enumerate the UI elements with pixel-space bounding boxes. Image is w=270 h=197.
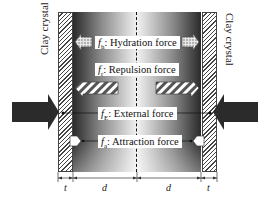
hydration-force-label: fh: Hydration force — [95, 36, 180, 49]
attraction-text: : Attraction force — [107, 136, 179, 147]
repulsion-arrow-left — [75, 79, 118, 97]
force-arrows — [0, 0, 270, 197]
attraction-arrow-right — [193, 136, 204, 146]
attraction-force-label: fa: Attraction force — [98, 135, 182, 148]
repulsion-force-label: fr: Repulsion force — [95, 63, 179, 76]
attraction-arrow-left — [70, 136, 81, 146]
external-arrow-left — [12, 94, 59, 130]
dimension-d-right: d — [166, 182, 171, 193]
dimension-t-right: t — [207, 182, 210, 193]
hydration-arrow-right — [182, 34, 199, 50]
external-text: : External force — [108, 108, 173, 119]
repulsion-arrow-right — [156, 79, 199, 97]
repulsion-text: : Repulsion force — [103, 64, 175, 75]
dimension-lines — [58, 172, 217, 182]
external-force-label: fE: External force — [98, 107, 177, 120]
dimension-t-left: t — [64, 182, 67, 193]
hydration-text: : Hydration force — [104, 37, 176, 48]
dimension-d-left: d — [102, 182, 107, 193]
hydration-arrow-left — [75, 34, 92, 50]
external-arrow-right — [213, 94, 258, 130]
